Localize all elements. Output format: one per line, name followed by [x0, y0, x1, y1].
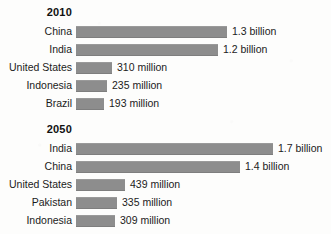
- table-row: India 1.2 billion: [0, 41, 331, 59]
- category-label: Indonesia: [0, 212, 72, 230]
- panel-year-heading-2010: 2010: [0, 6, 72, 19]
- table-row: China 1.4 billion: [0, 158, 331, 176]
- category-label: United States: [0, 176, 72, 194]
- category-label: India: [0, 41, 72, 59]
- bar: [76, 215, 115, 227]
- bar-area: 309 million: [76, 212, 331, 230]
- bar-area: 1.4 billion: [76, 158, 331, 176]
- table-row: India 1.7 billion: [0, 140, 331, 158]
- bar-area: 1.7 billion: [76, 140, 331, 158]
- bar-area: 193 million: [76, 95, 331, 113]
- category-label: Brazil: [0, 95, 72, 113]
- bar-value-label: 235 million: [112, 77, 162, 95]
- bar-value-label: 193 million: [109, 95, 159, 113]
- bar-value-label: 439 million: [130, 176, 180, 194]
- bar-area: 310 million: [76, 59, 331, 77]
- table-row: China 1.3 billion: [0, 23, 331, 41]
- bar: [76, 161, 240, 173]
- bar-area: 335 million: [76, 194, 331, 212]
- table-row: Indonesia 235 million: [0, 77, 331, 95]
- category-label: United States: [0, 59, 72, 77]
- table-row: Indonesia 309 million: [0, 212, 331, 230]
- bar-rows-2010: China 1.3 billion India 1.2 billion Unit…: [0, 23, 331, 113]
- panel-year-heading-2050: 2050: [0, 123, 72, 136]
- category-label: Pakistan: [0, 194, 72, 212]
- category-label: India: [0, 140, 72, 158]
- bar: [76, 26, 227, 38]
- bar-area: 235 million: [76, 77, 331, 95]
- bar-area: 1.2 billion: [76, 41, 331, 59]
- bar-value-label: 1.4 billion: [245, 158, 289, 176]
- bar: [76, 80, 107, 92]
- bar-value-label: 1.3 billion: [232, 23, 276, 41]
- bar-value-label: 1.2 billion: [223, 41, 267, 59]
- population-bar-chart: 2010 China 1.3 billion India 1.2 billion…: [0, 0, 331, 234]
- bar-area: 439 million: [76, 176, 331, 194]
- bar-value-label: 309 million: [120, 212, 170, 230]
- bar-area: 1.3 billion: [76, 23, 331, 41]
- bar: [76, 179, 125, 191]
- category-label: China: [0, 158, 72, 176]
- table-row: United States 439 million: [0, 176, 331, 194]
- bar-value-label: 335 million: [122, 194, 172, 212]
- table-row: United States 310 million: [0, 59, 331, 77]
- bar: [76, 143, 273, 155]
- bar-value-label: 1.7 billion: [278, 140, 322, 158]
- bar: [76, 62, 112, 74]
- category-label: Indonesia: [0, 77, 72, 95]
- bar: [76, 98, 104, 110]
- table-row: Brazil 193 million: [0, 95, 331, 113]
- table-row: Pakistan 335 million: [0, 194, 331, 212]
- bar-rows-2050: India 1.7 billion China 1.4 billion Unit…: [0, 140, 331, 230]
- bar: [76, 44, 218, 56]
- bar-value-label: 310 million: [117, 59, 167, 77]
- bar: [76, 197, 117, 209]
- category-label: China: [0, 23, 72, 41]
